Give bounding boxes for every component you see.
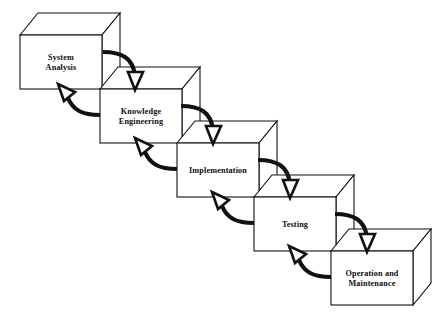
arrow-shaft [299,260,331,277]
stage-label-operation-and-maintenance: Operation andMaintenance [345,269,398,289]
stage-boxes-layer [20,13,431,305]
arrow-shaft [222,206,254,223]
stage-label-line: Analysis [46,63,77,72]
stage-label-line: Maintenance [348,279,395,288]
arrow-shaft [68,98,100,115]
stage-label-line: Engineering [119,117,164,126]
stage-label-testing: Testing [282,220,309,229]
stage-label-line: Operation and [345,269,398,278]
arrow-shaft [145,152,177,169]
waterfall-diagram-canvas: SystemAnalysisKnowledgeEngineeringImplem… [0,0,448,334]
stage-label-line: Testing [282,220,309,229]
stage-label-knowledge-engineering: KnowledgeEngineering [119,107,164,127]
waterfall-diagram: SystemAnalysisKnowledgeEngineeringImplem… [0,0,448,334]
stage-box-operation-and-maintenance [331,229,431,305]
stage-label-system-analysis: SystemAnalysis [46,53,77,73]
stage-label-line: Knowledge [121,107,162,116]
stage-label-line: Implementation [189,166,247,175]
box-front-face [20,35,102,89]
box-front-face [331,251,413,305]
stage-label-implementation: Implementation [189,166,247,175]
box-front-face [100,89,182,143]
stage-label-line: System [48,53,74,62]
